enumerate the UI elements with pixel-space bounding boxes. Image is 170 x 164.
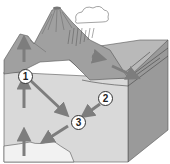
label-3: 3 xyxy=(71,115,86,130)
cloud-icon xyxy=(76,6,109,23)
arrow-runoff xyxy=(92,56,100,58)
volcano-crater xyxy=(53,6,61,9)
label-1: 1 xyxy=(18,69,33,84)
rock-cycle-diagram: 1 2 3 xyxy=(0,0,170,164)
label-2: 2 xyxy=(98,91,113,106)
